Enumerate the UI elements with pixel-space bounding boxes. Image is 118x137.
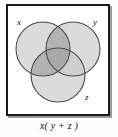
venn-diagram-figure: x y z x( y + z ) xyxy=(0,0,118,137)
set-label-z: z xyxy=(85,93,89,102)
figure-caption: x( y + z ) xyxy=(0,120,118,131)
set-label-y: y xyxy=(93,18,97,27)
set-label-x: x xyxy=(17,18,21,27)
